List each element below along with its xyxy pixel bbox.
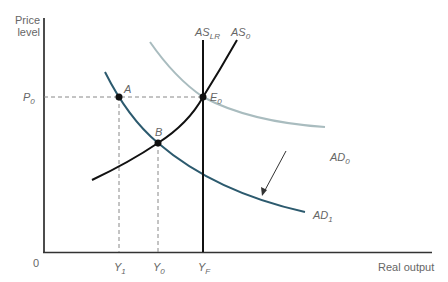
ad0-curve [150,42,325,127]
y1-label: Y1 [114,261,126,273]
p0-label: P0 [23,91,35,103]
x-axis-label: Real output [378,261,434,273]
as-lr-label: ASLR [195,26,220,38]
point-a [116,94,123,101]
point-b [155,140,162,147]
point-a-label: A [124,83,131,95]
shift-arrow [264,151,286,192]
point-e0-label: E0 [210,91,222,103]
ad1-label: AD1 [313,209,333,221]
point-e0 [200,94,207,101]
diagram-canvas [0,0,448,282]
ad0-label: AD0 [330,151,350,163]
point-b-label: B [155,126,162,138]
y0-label: Y0 [153,261,165,273]
as0-label: AS0 [231,26,250,38]
y-axis-label: Price level [4,14,40,38]
yf-label: YF [198,261,210,273]
origin-label: 0 [33,257,39,269]
